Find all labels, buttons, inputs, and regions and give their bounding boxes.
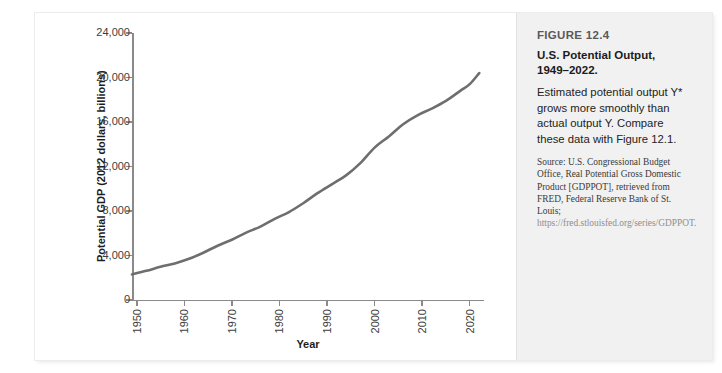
y-tick-label: 20,000 (10, 71, 130, 83)
x-tick-mark (184, 300, 186, 306)
y-tick-label: 0 (10, 293, 130, 305)
figure-page: Potential GDP (2012 dollars, billions) 0… (0, 0, 722, 373)
scanned-page-sheet: Potential GDP (2012 dollars, billions) 0… (35, 13, 712, 360)
y-tick-label: 16,000 (10, 115, 130, 127)
figure-title-line2: 1949–2022. (537, 64, 598, 76)
figure-description: Estimated potential output Y* grows more… (537, 85, 694, 147)
x-tick-mark (279, 300, 281, 306)
x-tick-mark (421, 300, 423, 306)
series-line-chart (132, 33, 484, 300)
x-tick-mark (374, 300, 376, 306)
y-tick-label: 4,000 (10, 249, 130, 261)
figure-source: Source: U.S. Congressional Budget Office… (537, 156, 694, 229)
x-tick-label: 1980 (273, 309, 285, 333)
caption-panel: FIGURE 12.4 U.S. Potential Output, 1949–… (516, 13, 712, 360)
y-tick-label: 24,000 (10, 26, 130, 38)
y-tick-label: 8,000 (10, 204, 130, 216)
figure-source-url[interactable]: https://fred.stlouisfed.org/series/GDPPO… (537, 218, 696, 228)
plot-area: 04,0008,00012,00016,00020,00024,00019501… (132, 33, 484, 300)
x-tick-label: 2000 (369, 309, 381, 333)
series-path-potential-gdp (132, 73, 479, 274)
x-tick-label: 2020 (464, 309, 476, 333)
x-tick-mark (469, 300, 471, 306)
x-tick-label: 1990 (321, 309, 333, 333)
figure-source-text: Source: U.S. Congressional Budget Office… (537, 157, 681, 216)
x-axis-title: Year (132, 338, 484, 350)
x-tick-mark (231, 300, 233, 306)
figure-title: U.S. Potential Output, 1949–2022. (537, 48, 694, 78)
x-tick-mark (326, 300, 328, 306)
x-tick-label: 1960 (178, 309, 190, 333)
x-tick-label: 2010 (416, 309, 428, 333)
x-tick-mark (136, 300, 138, 306)
chart-area: Potential GDP (2012 dollars, billions) 0… (35, 13, 516, 360)
x-tick-label: 1970 (226, 309, 238, 333)
y-tick-label: 12,000 (10, 160, 130, 172)
x-tick-label: 1950 (131, 309, 143, 333)
figure-title-line1: U.S. Potential Output, (537, 49, 655, 61)
figure-number: FIGURE 12.4 (537, 29, 694, 41)
